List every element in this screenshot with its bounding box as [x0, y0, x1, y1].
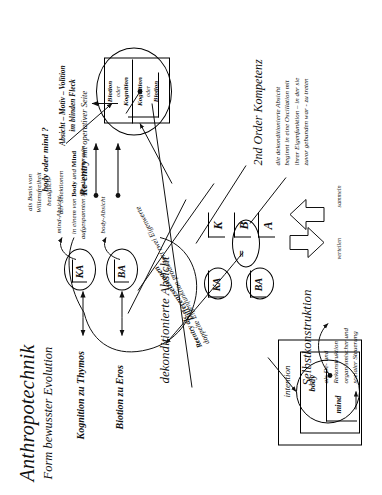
ba-label: BA [116, 260, 127, 282]
dek-line-1: als Basis von [26, 97, 35, 287]
sammeln-label: sammeln [336, 185, 343, 207]
operator-bottom-line-1: Kognition [136, 59, 145, 123]
so-line-2: beginnt in eine Oscillation mit [283, 77, 292, 165]
dek-line-5-a: in einem von [70, 196, 78, 234]
second-order-body: die dekonditionierte Absicht beginnt in … [274, 77, 312, 165]
operator-row-bottom: Kognition oder Biotion [136, 59, 161, 123]
dek-line-5-c: und [70, 167, 78, 181]
blinder-fleck-line-1: Absicht – Motiv – Volition [58, 45, 68, 165]
reentry-operativ-rest: mit operativer Seite [79, 90, 89, 159]
equals-sign: = [234, 250, 250, 257]
verteilen-sammeln-arrows [288, 183, 334, 263]
page-title: Anthropotechnik [16, 344, 38, 481]
reentry-operativ-label: Re-entry mit operativer Seite [78, 90, 90, 195]
operator-bottom-line-3: Biotion [152, 59, 161, 123]
mind-label: mind [334, 395, 344, 413]
operator-row-top: Biotion oder Kognition [106, 59, 131, 123]
blinder-fleck-label: Absicht – Motiv – Volition im blinden Fl… [58, 45, 78, 165]
verteilen-label: verteilen [336, 237, 343, 259]
blinder-fleck-line-2: im blinden Fleck [68, 45, 78, 165]
so-line-3: ihrer Eigenfunktion – in der sie [293, 77, 302, 165]
intention-label: intention [282, 365, 292, 397]
biotion-eros-label: Biotion zu Eros [114, 365, 125, 429]
kognition-thymos-label: Kognition zu Thymos [75, 351, 86, 439]
operator-bottom-line-2: oder [145, 59, 153, 123]
dek-line-2: Willensfreiheit [35, 97, 44, 287]
body-label: body [308, 374, 318, 391]
eq-a-label: A [261, 213, 276, 237]
dek-body-word: Body [70, 181, 78, 197]
so-line-1: die dekonditionierte Absicht [274, 77, 283, 165]
dek-line-3: bezüglich [45, 97, 54, 287]
eq-k-label: K [211, 213, 226, 237]
diagram-canvas: Anthropotechnik Form bewusster Evolution… [0, 0, 382, 495]
second-order-heading: 2nd Order Kompetenz [252, 59, 265, 165]
eq-ba-label: BA [253, 271, 264, 297]
operator-top-line-3: Kognition [122, 59, 131, 123]
so-line-4: zuvor gebunden war - zu treten [302, 77, 311, 165]
diagram-page: Anthropotechnik Form bewusster Evolution… [0, 0, 382, 495]
page-subtitle: Form bewusster Evolution [41, 346, 55, 479]
body-absicht-label: body-Absicht [100, 196, 108, 233]
eq-ka-label: KA [211, 271, 222, 297]
eq-b-label: B [237, 213, 252, 237]
operator-top-line-2: oder [115, 59, 123, 123]
operator-top-line-1: Biotion [106, 59, 115, 123]
reentry-operativ-word: Re-entry [78, 159, 89, 195]
operator-divider [132, 59, 133, 123]
body-oder-mind-label: body oder mind ? [40, 127, 50, 191]
